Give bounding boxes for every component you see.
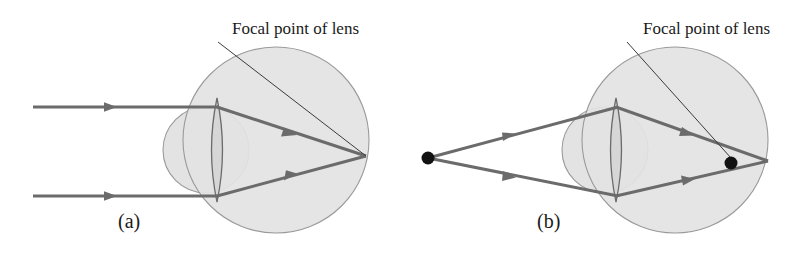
diagram-canvas: Focal point of lens (a) — [0, 0, 798, 276]
ray-arrowhead-icon — [502, 133, 516, 142]
panel-a: Focal point of lens (a) — [33, 19, 369, 233]
eye-optics-figure: Focal point of lens (a) — [0, 0, 798, 276]
ray-arrowhead-icon — [104, 191, 117, 201]
eyeball-circle-b — [582, 47, 768, 233]
point-source-dot-b — [422, 152, 435, 165]
panel-b: Focal point of lens (b) — [422, 19, 771, 233]
eyeball-circle-a — [183, 47, 369, 233]
panel-letter-a: (a) — [118, 210, 140, 233]
focal-point-label-b: Focal point of lens — [643, 19, 770, 38]
focal-point-label-a: Focal point of lens — [232, 19, 359, 38]
panel-letter-b: (b) — [537, 210, 560, 233]
ray-arrowhead-icon — [104, 102, 117, 112]
focal-point-dot-b — [725, 157, 738, 170]
eyeball-b — [562, 47, 768, 233]
eyeball-a — [163, 47, 369, 233]
